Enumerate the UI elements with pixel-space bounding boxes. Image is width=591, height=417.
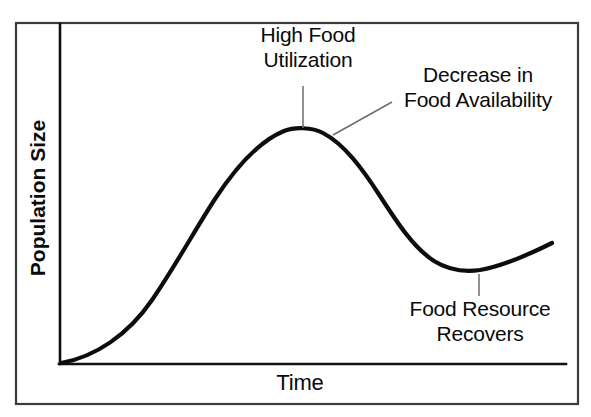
x-axis-label: Time	[235, 370, 365, 395]
y-axis-label: Population Size	[26, 98, 50, 298]
annotation-high-food-utilization: High Food Utilization	[228, 22, 388, 72]
annotation-food-resource-recovers: Food Resource Recovers	[378, 296, 582, 346]
annotation-decrease-in-food-availability: Decrease in Food Availability	[372, 62, 584, 112]
population-cycle-chart: High Food Utilization Decrease in Food A…	[0, 0, 591, 417]
